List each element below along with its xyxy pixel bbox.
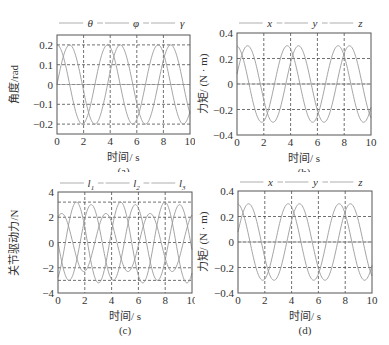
y-tick-label: −0.2 <box>214 262 234 274</box>
y-tick-label: 0 <box>228 78 234 90</box>
y-tick-label: −0.4 <box>214 287 234 299</box>
chart-c-svg: l1l2l30246810420−2−4时间/ s(c)关节驱动力/N <box>0 172 195 345</box>
x-tick-label: 6 <box>136 294 142 306</box>
y-tick-label: −0.1 <box>33 98 53 110</box>
chart-panel-a: θφγ02468100.20.10−0.1−0.2时间/ s(a)角度/rad <box>0 0 195 172</box>
legend-label: x <box>267 176 273 188</box>
series-d <box>238 204 372 281</box>
x-tick-label: 10 <box>187 294 196 306</box>
legend-label: y <box>312 17 318 29</box>
legend-label: l1 <box>88 177 95 192</box>
x-tick-label: 8 <box>162 294 168 306</box>
chart-panel-d: xyz02468100.40.20−0.2−0.4时间/ s(d)力矩/ (N … <box>195 172 389 345</box>
chart-b-svg: xyz02468100.40.20−0.2−0.4时间/ s(b)力矩/ (N … <box>195 0 389 172</box>
legend-label: l3 <box>179 177 186 192</box>
x-tick-label: 0 <box>54 135 60 147</box>
y-tick-label: −0.2 <box>213 104 233 116</box>
x-tick-label: 10 <box>185 135 196 147</box>
x-tick-label: 4 <box>288 136 294 148</box>
chart-panel-b: xyz02468100.40.20−0.2−0.4时间/ s(b)力矩/ (N … <box>195 0 389 172</box>
x-tick-label: 10 <box>367 294 379 306</box>
legend-b: xyz <box>239 17 363 29</box>
y-tick-label: 0.2 <box>219 53 233 65</box>
legend-c: l1l2l3 <box>60 177 186 192</box>
x-tick-label: 4 <box>107 135 113 147</box>
series-a <box>57 45 190 124</box>
x-tick-label: 8 <box>341 136 347 148</box>
legend-label: θ <box>87 17 93 29</box>
x-tick-label: 6 <box>134 135 140 147</box>
x-tick-label: 10 <box>366 136 378 148</box>
x-tick-label: 4 <box>289 294 295 306</box>
panel-caption: (d) <box>299 324 312 337</box>
x-tick-label: 4 <box>109 294 115 306</box>
x-axis-label: 时间/ s <box>107 151 139 163</box>
x-tick-label: 8 <box>161 135 167 147</box>
x-tick-label: 8 <box>342 294 348 306</box>
x-tick-label: 2 <box>82 294 88 306</box>
y-tick-label: 0.4 <box>220 185 234 197</box>
chart-panel-c: l1l2l30246810420−2−4时间/ s(c)关节驱动力/N <box>0 172 195 345</box>
y-tick-label: 4 <box>49 186 55 198</box>
y-axis-label: 力矩/ (N · m) <box>197 53 210 114</box>
x-tick-label: 6 <box>315 136 321 148</box>
y-tick-label: −0.4 <box>213 129 233 141</box>
x-tick-label: 6 <box>316 294 322 306</box>
x-tick-label: 0 <box>234 136 240 148</box>
legend-label: z <box>357 17 363 29</box>
legend-label: y <box>312 176 318 188</box>
series-b <box>237 46 371 123</box>
y-tick-label: 0.1 <box>39 59 53 71</box>
y-tick-label: 0 <box>48 79 54 91</box>
y-tick-label: 0.4 <box>219 27 233 39</box>
legend-label: z <box>357 176 363 188</box>
y-tick-label: −2 <box>42 262 54 274</box>
y-tick-label: 0.2 <box>220 211 234 223</box>
x-tick-label: 2 <box>262 294 268 306</box>
y-tick-label: 0.2 <box>39 39 53 51</box>
panel-caption: (a) <box>117 165 130 172</box>
chart-a-svg: θφγ02468100.20.10−0.1−0.2时间/ s(a)角度/rad <box>0 0 195 172</box>
legend-label: x <box>266 17 272 29</box>
legend-label: φ <box>133 17 139 29</box>
x-tick-label: 0 <box>235 294 241 306</box>
grid-c <box>58 192 192 293</box>
y-axis-label: 角度/rad <box>7 64 20 104</box>
y-axis-label: 力矩/ (N · m) <box>197 211 210 272</box>
x-tick-label: 2 <box>81 135 87 147</box>
x-axis-label: 时间/ s <box>109 310 141 322</box>
legend-label: l2 <box>133 177 140 192</box>
x-axis-label: 时间/ s <box>289 310 321 322</box>
chart-d-svg: xyz02468100.40.20−0.2−0.4时间/ s(d)力矩/ (N … <box>195 172 389 345</box>
y-tick-label: 2 <box>49 211 55 223</box>
legend-d: xyz <box>240 176 363 188</box>
legend-label: γ <box>180 17 185 29</box>
x-axis-label: 时间/ s <box>288 152 320 164</box>
y-axis-label: 关节驱动力/N <box>7 209 20 275</box>
y-tick-label: −0.2 <box>33 118 53 130</box>
legend-a: θφγ <box>59 17 185 29</box>
x-tick-label: 2 <box>261 136 267 148</box>
y-tick-label: 0 <box>229 236 235 248</box>
y-tick-label: −4 <box>42 287 54 299</box>
x-tick-label: 0 <box>55 294 61 306</box>
y-tick-label: 0 <box>49 237 55 249</box>
panel-caption: (c) <box>119 324 132 337</box>
